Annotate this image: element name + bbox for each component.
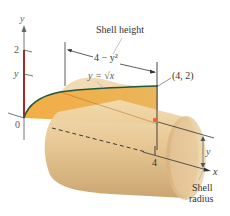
height-arrow-left	[68, 50, 93, 57]
y-axis-arrow	[22, 25, 27, 32]
shell-radius-label-line1: Shell	[192, 183, 213, 193]
shell-point	[153, 118, 157, 122]
height-arrow-right	[120, 64, 155, 72]
x-axis-label: x	[213, 167, 217, 177]
shell-method-diagram: y 2 y 0 Shell height 4 − y² y = √x (4, 2…	[0, 0, 230, 216]
curve-equation-label: y = √x	[88, 71, 114, 81]
y-tick-label-y: y	[14, 69, 18, 79]
shell-radius-label-line2: radius	[189, 194, 213, 204]
y-tick-y	[24, 74, 33, 76]
x-axis-stub-left	[8, 113, 24, 118]
shell-height-expression: 4 − y²	[94, 53, 118, 63]
y-axis-label: y	[20, 14, 24, 24]
x-axis-arrow	[204, 168, 212, 172]
shell-height-label: Shell height	[96, 25, 144, 35]
y-tick-label-2: 2	[14, 45, 19, 55]
radius-label: y	[206, 147, 210, 157]
point-label: (4, 2)	[172, 71, 194, 81]
x-tick-label-4: 4	[152, 158, 157, 168]
origin-label: 0	[15, 120, 20, 130]
y-tick-2	[24, 50, 32, 52]
point-leader	[158, 78, 171, 86]
